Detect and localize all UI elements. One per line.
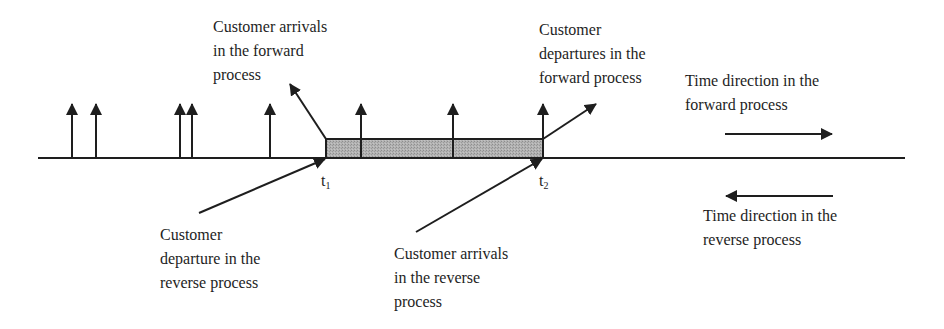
reverse-time-direction-label: Time direction in the reverse process: [703, 204, 837, 252]
forward-departures-pointer-icon: [543, 104, 596, 139]
queue-reversibility-diagram: t1 t2 Customer arrivals in the forward p…: [0, 0, 944, 329]
reverse-arrivals-label: Customer arrivals in the reverse process: [394, 242, 508, 314]
forward-time-direction-label: Time direction in the forward process: [685, 69, 819, 117]
t1-subscript: 1: [325, 180, 330, 191]
forward-arrivals-pointer-icon: [290, 84, 326, 139]
t2-subscript: 2: [543, 180, 548, 191]
reverse-arrivals-pointer-icon: [416, 159, 542, 232]
forward-departures-label: Customer departures in the forward proce…: [539, 18, 646, 90]
reverse-departure-label: Customer departure in the reverse proces…: [160, 223, 260, 295]
time-mark-t1: t1: [321, 172, 330, 195]
time-mark-t2: t2: [539, 172, 548, 195]
reverse-departure-pointer-icon: [199, 159, 325, 213]
forward-arrivals-label: Customer arrivals in the forward process: [213, 15, 327, 87]
busy-period-box: [326, 139, 543, 158]
